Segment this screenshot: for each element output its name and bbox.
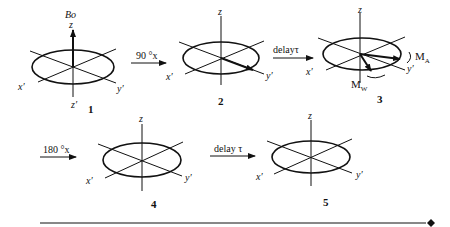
arrow-label-delay-1: delayτ	[273, 45, 299, 55]
z-label-4: z	[139, 114, 143, 124]
magnetization-vector-y	[221, 58, 253, 70]
panel-number-5: 5	[323, 197, 329, 208]
panel-3-axes	[318, 13, 405, 83]
y-label-1: y′	[117, 84, 124, 94]
z-label-2: z	[218, 7, 222, 17]
arrow-label-delay-2: delay τ	[214, 144, 242, 154]
y-label-3: y′	[407, 64, 414, 74]
arrow-label-90x: 90 °x	[136, 51, 158, 61]
x-label-5: x′	[256, 172, 263, 182]
x-label-1: x′	[18, 82, 25, 92]
x-label-3: x′	[306, 67, 313, 77]
ma-vector	[360, 54, 400, 59]
y-label-5: y′	[356, 170, 363, 180]
end-diamond	[427, 219, 435, 227]
z-label-5: z	[308, 111, 312, 121]
zprime-label-1: z′	[71, 100, 77, 110]
panel-number-3: 3	[377, 94, 383, 105]
panel-number-1: 1	[88, 104, 94, 115]
x-label-4: x′	[86, 176, 93, 186]
z-label-1: z	[69, 20, 73, 30]
panel-number-2: 2	[218, 96, 224, 107]
mw-label: MW	[351, 79, 367, 93]
panel-5-axes	[267, 120, 352, 186]
y-label-2: y′	[266, 71, 273, 81]
x-label-2: x′	[166, 72, 173, 82]
arrow-label-180x: 180 °x	[43, 145, 70, 155]
panel-4-axes	[98, 124, 183, 191]
z-label-3: z	[358, 5, 362, 15]
panel-number-4: 4	[151, 199, 157, 210]
ma-rotation-arc	[407, 52, 411, 63]
ma-label: MA	[415, 51, 430, 65]
y-label-4: y′	[185, 173, 192, 183]
mw-rotation-arc	[367, 75, 385, 78]
panel-2-axes	[179, 16, 264, 85]
nmr-pulse-sequence-diagram	[0, 0, 450, 227]
